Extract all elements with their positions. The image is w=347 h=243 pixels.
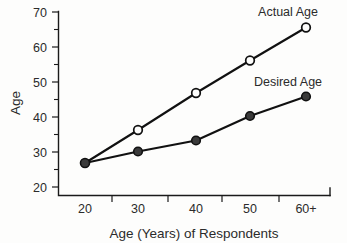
data-point-actual-30 (134, 126, 143, 135)
data-point-desired-50 (246, 112, 255, 121)
data-point-shared-origin-20 (81, 159, 90, 168)
y-tick-label-40: 40 (33, 111, 47, 125)
x-tick-label-40: 40 (189, 202, 203, 216)
series-desired-age (81, 92, 311, 167)
line-chart-canvas: 70 60 50 40 30 20 20 30 40 50 60+ Age Ag… (0, 0, 347, 243)
x-tick-label-50: 50 (243, 202, 257, 216)
chart-figure: 70 60 50 40 30 20 20 30 40 50 60+ Age Ag… (0, 0, 347, 243)
x-tick-label-30: 30 (131, 202, 145, 216)
y-tick-label-60: 60 (33, 41, 47, 55)
y-axis-title: Age (8, 91, 23, 115)
y-tick-label-30: 30 (33, 146, 47, 160)
y-tick-label-50: 50 (33, 76, 47, 90)
series-label-actual-age: Actual Age (258, 5, 318, 19)
x-tick-label-60plus: 60+ (295, 202, 316, 216)
data-point-actual-60plus (302, 23, 311, 32)
data-point-actual-50 (246, 56, 255, 65)
y-tick-label-70: 70 (33, 6, 47, 20)
x-axis-title: Age (Years) of Respondents (109, 226, 278, 241)
data-point-actual-40 (192, 89, 201, 98)
x-tick-label-20: 20 (78, 202, 92, 216)
series-label-desired-age: Desired Age (254, 75, 322, 89)
y-tick-label-20: 20 (33, 181, 47, 195)
data-point-desired-60plus (302, 92, 311, 101)
chart-axes (59, 12, 331, 196)
series-desired-age-line (85, 97, 306, 164)
data-point-desired-30 (134, 147, 143, 156)
data-point-desired-40 (192, 136, 201, 145)
